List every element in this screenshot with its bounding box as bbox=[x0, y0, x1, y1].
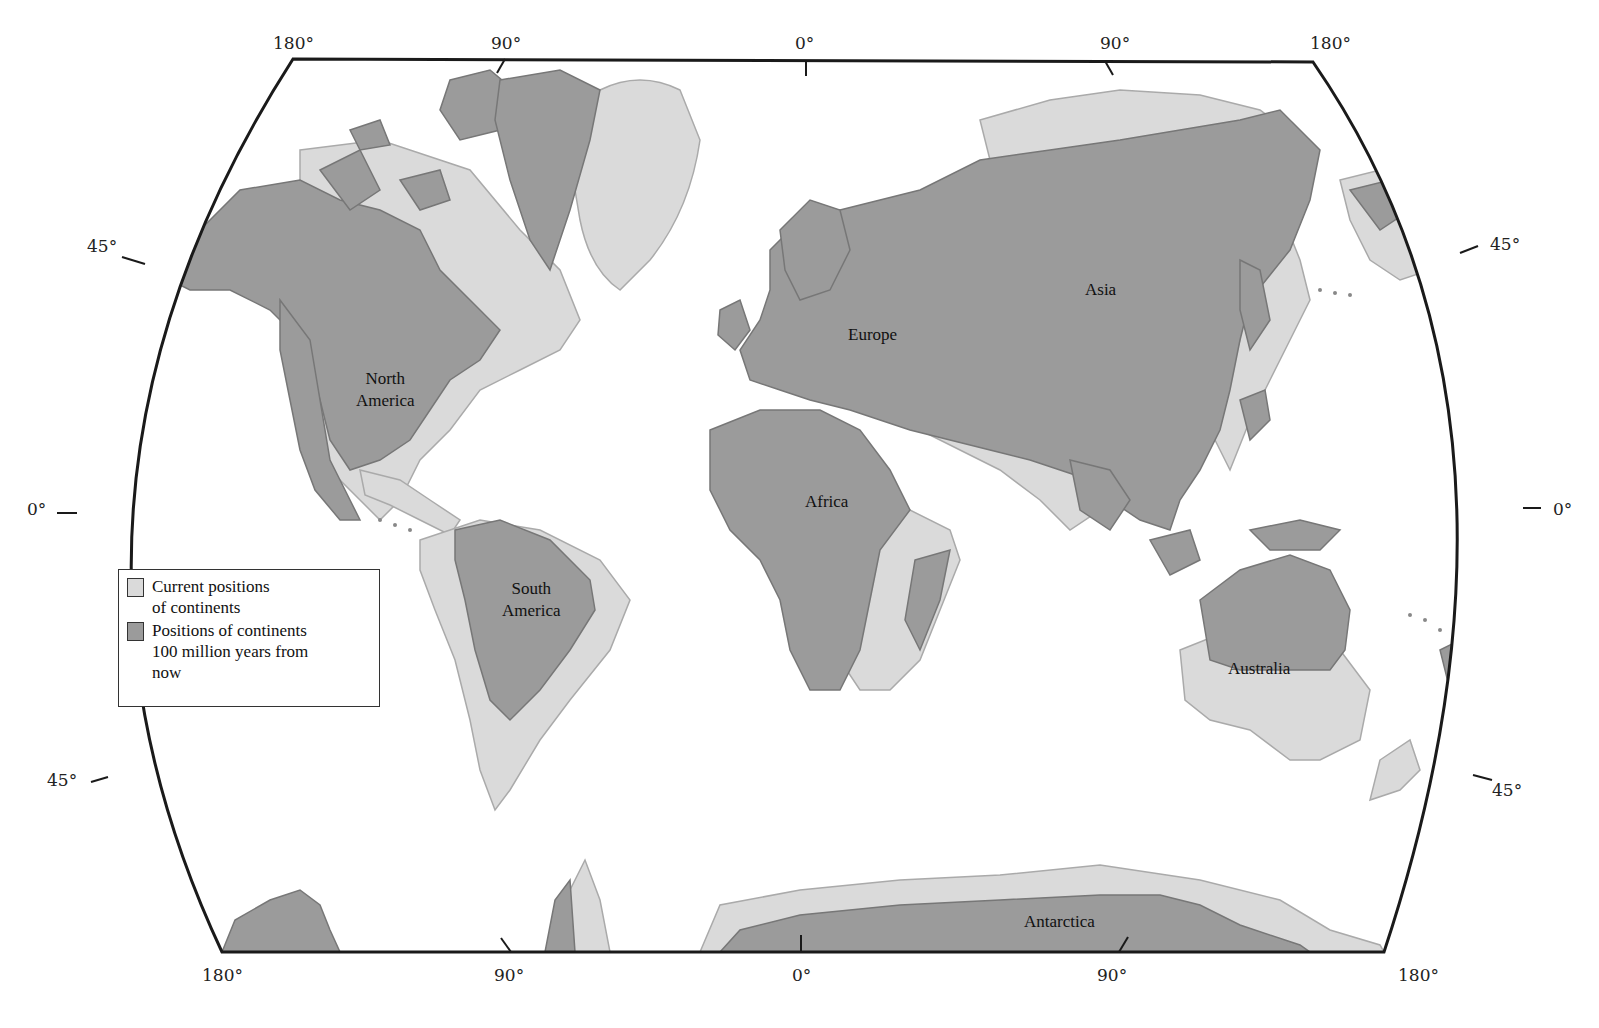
lon-label-bottom-90e: 90° bbox=[1097, 965, 1127, 985]
lon-label-bottom-0: 0° bbox=[792, 965, 811, 985]
lon-label-top-90e: 90° bbox=[1100, 33, 1130, 53]
label-africa: Africa bbox=[805, 491, 848, 513]
label-south-america-line2: America bbox=[502, 600, 561, 622]
lon-label-bottom-90w: 90° bbox=[494, 965, 524, 985]
map-legend: Current positions of continents Position… bbox=[118, 569, 380, 707]
lat-label-right-45s: 45° bbox=[1492, 780, 1522, 800]
legend-swatch-current bbox=[127, 578, 144, 597]
label-south-america: South America bbox=[502, 578, 561, 622]
lon-label-bottom-180e: 180° bbox=[1398, 965, 1439, 985]
label-europe: Europe bbox=[848, 324, 897, 346]
lat-label-left-45n: 45° bbox=[87, 236, 117, 256]
lon-label-top-0: 0° bbox=[795, 33, 814, 53]
legend-future-line1: Positions of continents bbox=[152, 620, 308, 641]
legend-text-future: Positions of continents 100 million year… bbox=[152, 620, 308, 683]
label-north-america-line1: North bbox=[356, 368, 415, 390]
label-south-america-line1: South bbox=[502, 578, 561, 600]
lat-label-left-0: 0° bbox=[27, 499, 46, 519]
label-asia: Asia bbox=[1085, 279, 1116, 301]
legend-future-line3: now bbox=[152, 662, 308, 683]
label-north-america: North America bbox=[356, 368, 415, 412]
label-antarctica: Antarctica bbox=[1024, 911, 1095, 933]
label-north-america-line2: America bbox=[356, 390, 415, 412]
lon-label-top-90w: 90° bbox=[491, 33, 521, 53]
lon-label-top-180w: 180° bbox=[273, 33, 314, 53]
legend-current-line2: of continents bbox=[152, 597, 270, 618]
world-map bbox=[0, 0, 1599, 1028]
legend-swatch-future bbox=[127, 622, 144, 641]
legend-text-current: Current positions of continents bbox=[152, 576, 270, 618]
lon-label-bottom-180w: 180° bbox=[202, 965, 243, 985]
lat-label-left-45s: 45° bbox=[47, 770, 77, 790]
legend-current-line1: Current positions bbox=[152, 576, 270, 597]
lat-label-right-0: 0° bbox=[1553, 499, 1572, 519]
legend-future-line2: 100 million years from bbox=[152, 641, 308, 662]
label-australia: Australia bbox=[1228, 658, 1290, 680]
legend-item-future: Positions of continents 100 million year… bbox=[127, 620, 371, 683]
legend-item-current: Current positions of continents bbox=[127, 576, 371, 618]
lat-label-right-45n: 45° bbox=[1490, 234, 1520, 254]
lon-label-top-180e: 180° bbox=[1310, 33, 1351, 53]
